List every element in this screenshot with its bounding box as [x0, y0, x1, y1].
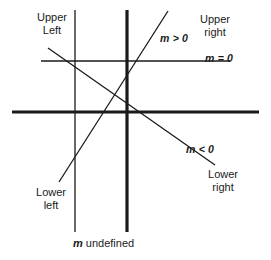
- label-lower-left: Lower left: [25, 186, 77, 211]
- slope-diagram-figure: Upper Left Upper right m > 0 m = 0 m < 0…: [0, 0, 271, 260]
- label-lower-right: Lower right: [196, 168, 250, 193]
- diagram-canvas: [0, 0, 271, 260]
- label-m-undefined-variable: m: [73, 237, 83, 249]
- label-m-positive: m > 0: [160, 32, 208, 45]
- label-m-undefined: m undefined: [73, 237, 183, 250]
- label-upper-left: Upper Left: [26, 11, 78, 36]
- label-m-negative: m < 0: [186, 143, 234, 156]
- label-m-zero: m = 0: [205, 52, 253, 65]
- label-m-undefined-text: undefined: [83, 237, 134, 249]
